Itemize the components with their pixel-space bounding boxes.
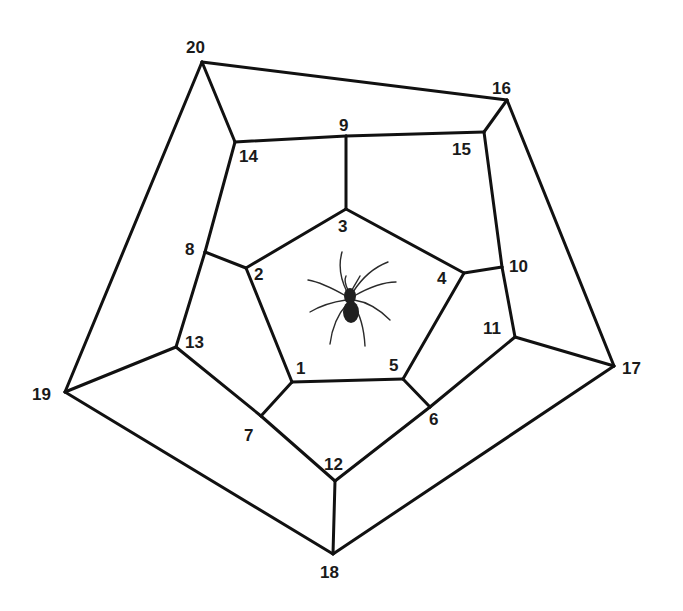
vertex-label-1: 1 bbox=[296, 359, 305, 378]
vertex-label-19: 19 bbox=[32, 385, 51, 404]
vertex-label-2: 2 bbox=[254, 265, 263, 284]
vertex-label-13: 13 bbox=[185, 333, 204, 352]
spider-icon bbox=[308, 252, 396, 346]
vertex-label-12: 12 bbox=[324, 455, 343, 474]
vertex-label-11: 11 bbox=[483, 319, 501, 338]
edge-8-14 bbox=[205, 142, 235, 252]
dodecahedron-graph: 1234567891011121314151617181920 bbox=[0, 0, 683, 611]
edge-14-9 bbox=[235, 136, 346, 142]
edge-1-2 bbox=[246, 268, 292, 382]
vertex-label-7: 7 bbox=[244, 426, 253, 445]
edge-15-10 bbox=[484, 132, 502, 267]
edge-5-6 bbox=[403, 379, 430, 407]
graph-edges bbox=[65, 62, 614, 554]
vertex-label-3: 3 bbox=[338, 217, 347, 236]
edge-9-15 bbox=[346, 132, 484, 136]
vertex-label-10: 10 bbox=[509, 257, 528, 276]
vertex-labels: 1234567891011121314151617181920 bbox=[32, 38, 641, 582]
edge-2-8 bbox=[205, 252, 246, 268]
vertex-label-9: 9 bbox=[339, 116, 348, 135]
vertex-label-16: 16 bbox=[492, 79, 511, 98]
edge-3-4 bbox=[346, 209, 464, 273]
vertex-label-4: 4 bbox=[437, 269, 447, 288]
vertex-label-14: 14 bbox=[239, 147, 258, 166]
edge-16-17 bbox=[507, 100, 614, 366]
edge-1-7 bbox=[261, 382, 292, 416]
vertex-label-15: 15 bbox=[452, 140, 471, 159]
vertex-label-8: 8 bbox=[185, 240, 194, 259]
edge-17-18 bbox=[333, 366, 614, 554]
vertex-label-18: 18 bbox=[320, 563, 339, 582]
edge-11-6 bbox=[430, 337, 515, 407]
edge-4-5 bbox=[403, 273, 464, 379]
edge-20-16 bbox=[202, 62, 507, 100]
edge-19-20 bbox=[65, 62, 202, 392]
vertex-label-6: 6 bbox=[429, 410, 438, 429]
edge-20-14 bbox=[202, 62, 235, 142]
edge-7-13 bbox=[176, 347, 261, 416]
vertex-label-20: 20 bbox=[186, 38, 205, 57]
vertex-label-5: 5 bbox=[389, 356, 398, 375]
edge-18-19 bbox=[65, 392, 333, 554]
edge-6-12 bbox=[335, 407, 430, 481]
edge-17-11 bbox=[515, 337, 614, 366]
edge-4-10 bbox=[464, 267, 502, 273]
edge-10-11 bbox=[502, 267, 515, 337]
vertex-label-17: 17 bbox=[622, 359, 641, 378]
edge-16-15 bbox=[484, 100, 507, 132]
edge-18-12 bbox=[333, 481, 335, 554]
edge-5-1 bbox=[292, 379, 403, 382]
edge-2-3 bbox=[246, 209, 346, 268]
